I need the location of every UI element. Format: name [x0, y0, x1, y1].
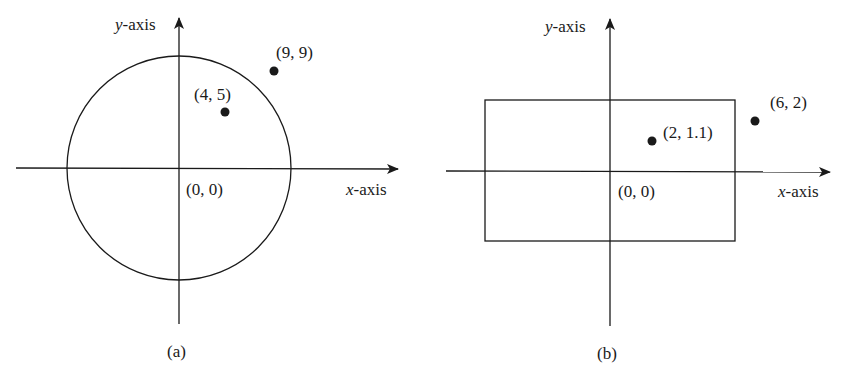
point-label: (9, 9) — [276, 43, 313, 62]
point-6-2 — [751, 117, 760, 126]
panel-a: y-axis x-axis (0, 0) (4, 5) (9, 9) (a) — [16, 15, 398, 361]
panel-b: y-axis x-axis (0, 0) (2, 1.1) (6, 2) (b) — [446, 17, 830, 363]
point-label: (4, 5) — [194, 85, 231, 104]
x-axis — [446, 171, 830, 172]
point-label: (2, 1.1) — [663, 123, 713, 142]
point-label: (6, 2) — [770, 93, 807, 112]
point-2-1.1 — [648, 137, 657, 146]
x-axis-label: x-axis — [345, 180, 387, 199]
figure: y-axis x-axis (0, 0) (4, 5) (9, 9) (a) y… — [0, 0, 846, 381]
y-axis-label: y-axis — [543, 17, 586, 36]
y-axis-label: y-axis — [113, 15, 156, 34]
caption-b: (b) — [597, 344, 617, 363]
x-axis — [16, 168, 398, 169]
origin-label: (0, 0) — [186, 180, 223, 199]
origin-label: (0, 0) — [618, 182, 655, 201]
point-9-9 — [270, 67, 279, 76]
point-4-5 — [221, 108, 230, 117]
x-axis-label: x-axis — [777, 182, 819, 201]
caption-a: (a) — [167, 342, 186, 361]
